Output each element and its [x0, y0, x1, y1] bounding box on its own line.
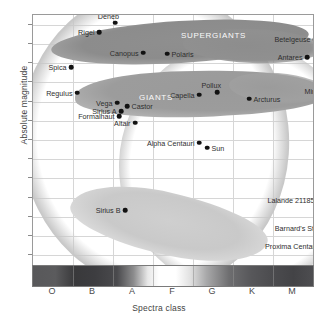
colorbar-divider — [153, 266, 154, 286]
spectral-class-colorbar — [32, 265, 314, 287]
star-point[interactable] — [69, 65, 74, 70]
star-point[interactable] — [97, 30, 102, 35]
colorbar-divider — [233, 266, 234, 286]
x-tick-label-b: B — [77, 286, 107, 296]
star-point[interactable] — [113, 20, 118, 25]
star-point[interactable] — [123, 208, 128, 213]
star-label: Canopus — [110, 48, 139, 57]
colorbar-divider — [73, 266, 74, 286]
star-point[interactable] — [215, 90, 220, 95]
star-label: Betelgeuse — [275, 34, 311, 43]
star-point[interactable] — [313, 37, 314, 42]
star-label: Mira — [305, 87, 314, 96]
star-point[interactable] — [305, 55, 310, 60]
x-tick-label-g: G — [197, 286, 227, 296]
star-label: Spica — [49, 62, 67, 71]
star-label: Vega — [96, 98, 112, 107]
star-label: Regulus — [46, 88, 72, 97]
star-label: Sirius B — [96, 206, 121, 215]
region-label-supergiants: SUPERGIANTS — [181, 31, 246, 40]
star-point[interactable] — [197, 141, 202, 146]
star-label: Castor — [132, 102, 153, 111]
star-point[interactable] — [75, 91, 80, 96]
region-label-giants: GIANTS — [139, 93, 173, 102]
colorbar-divider — [113, 266, 114, 286]
x-tick-label-m: M — [277, 286, 307, 296]
star-point[interactable] — [115, 100, 120, 105]
star-label: Altair — [114, 118, 130, 127]
x-tick-label-k: K — [237, 286, 267, 296]
star-label: Alpha Centauri — [147, 138, 195, 147]
star-point[interactable] — [197, 93, 202, 98]
colorbar-divider — [273, 266, 274, 286]
star-label: Deneb — [98, 14, 119, 20]
x-tick-label-f: F — [157, 286, 187, 296]
star-label: Polaris — [172, 49, 194, 58]
hr-diagram-figure: Absolute magnitude -8-6-4-20246810121416… — [0, 0, 318, 325]
star-label: Lalande 21185 — [267, 195, 314, 204]
plot-area: SUPERGIANTS GIANTS RigelDenebCanopusPola… — [32, 14, 314, 266]
colorbar-divider — [193, 266, 194, 286]
star-point[interactable] — [205, 145, 210, 150]
star-label: Proxima Centauri — [265, 241, 314, 250]
star-label: Pollux — [201, 80, 221, 89]
x-tick-label-a: A — [117, 286, 147, 296]
star-point[interactable] — [165, 51, 170, 56]
x-tick-label-o: O — [37, 286, 67, 296]
star-point[interactable] — [247, 97, 252, 102]
star-point[interactable] — [133, 120, 138, 125]
star-label: Rigel — [78, 28, 94, 37]
star-label: Antares — [278, 53, 303, 62]
star-point[interactable] — [141, 50, 146, 55]
star-label: Sun — [212, 143, 225, 152]
star-label: Barnard's Star — [275, 223, 314, 232]
star-label: Arcturus — [254, 94, 281, 103]
star-label: Capella — [170, 90, 194, 99]
x-axis-title: Spectra class — [0, 303, 318, 313]
star-point[interactable] — [125, 104, 130, 109]
star-label: Formalhaut — [78, 111, 114, 120]
